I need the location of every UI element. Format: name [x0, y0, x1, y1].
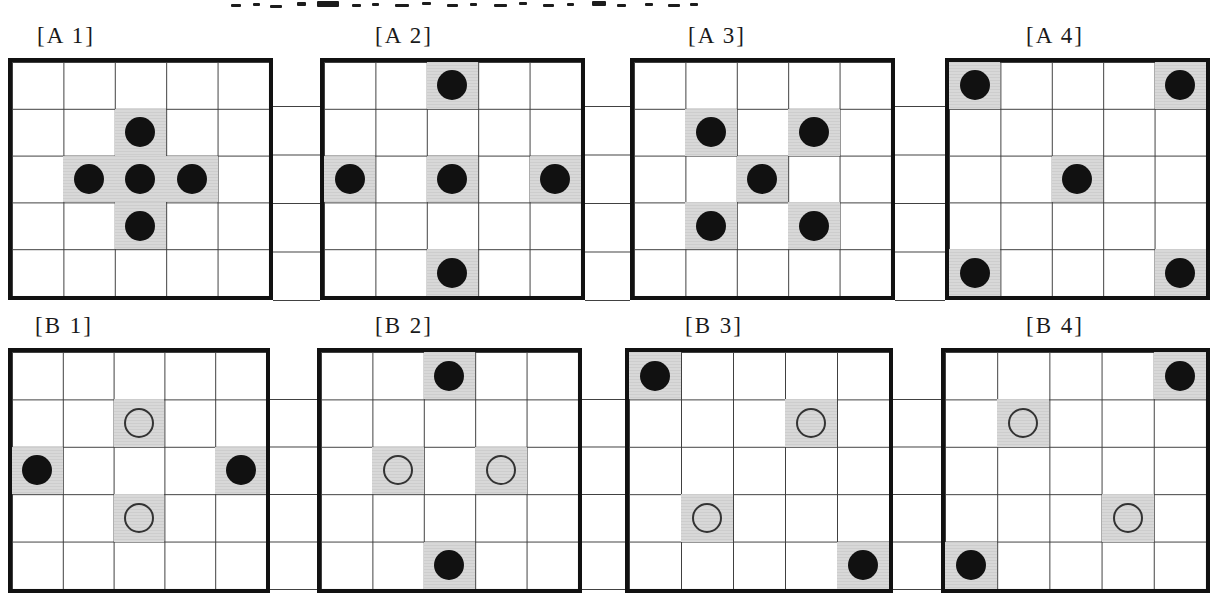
panel-A4: [A 4]	[945, 58, 1210, 300]
marked-cell-A3-r2c2	[737, 156, 788, 203]
filled-dot-icon	[437, 164, 467, 194]
panel-A1: [A 1]	[8, 58, 273, 300]
panel-label-A2: [A 2]	[375, 24, 433, 47]
filled-dot-icon	[848, 550, 878, 580]
grid-gap-lines	[270, 399, 317, 590]
marked-cell-A4-r4c4	[1155, 249, 1206, 296]
cut-off-glyph-fragment	[668, 4, 680, 7]
panel-A3: [A 3]	[630, 58, 895, 300]
grid-board-B4	[941, 348, 1210, 593]
marked-cell-A4-r2c2	[1052, 156, 1103, 203]
marked-cell-B4-r4c0	[945, 542, 997, 589]
marked-cell-A3-r1c1	[685, 109, 736, 156]
cut-off-glyph-fragment	[270, 5, 282, 8]
grid-gap-lines	[582, 399, 625, 590]
marked-cell-B3-r0c0	[629, 352, 681, 399]
marked-cell-A2-r0c2	[427, 62, 478, 109]
cut-off-glyph-fragment	[352, 4, 361, 7]
marked-cell-A2-r2c0	[324, 156, 375, 203]
filled-dot-icon	[125, 117, 155, 147]
filled-dot-icon	[956, 550, 986, 580]
filled-dot-icon	[960, 70, 990, 100]
marked-cell-A4-r0c4	[1155, 62, 1206, 109]
filled-dot-icon	[437, 258, 467, 288]
open-circle-icon	[796, 408, 826, 438]
cut-off-glyph-fragment	[519, 2, 527, 5]
filled-dot-icon	[696, 211, 726, 241]
open-circle-icon	[124, 503, 154, 533]
grid-gap-lines	[895, 106, 945, 301]
panel-label-A4: [A 4]	[1026, 24, 1084, 47]
cut-off-glyph-fragment	[297, 2, 306, 6]
open-circle-icon	[1008, 408, 1038, 438]
open-circle-icon	[124, 408, 154, 438]
cut-off-glyph-fragment	[317, 1, 339, 7]
marked-cell-A1-r2c2	[115, 156, 166, 203]
cut-off-glyph-fragment	[567, 3, 574, 6]
panel-B2: [B 2]	[317, 348, 582, 593]
marked-cell-A1-r1c2	[115, 109, 166, 156]
cut-off-glyph-fragment	[617, 4, 626, 7]
filled-dot-icon	[1165, 361, 1195, 391]
marked-cell-B1-r3c2	[114, 494, 165, 541]
filled-dot-icon	[960, 258, 990, 288]
panel-B1: [B 1]	[8, 348, 270, 593]
filled-dot-icon	[640, 361, 670, 391]
marked-cell-B2-r2c1	[372, 447, 423, 494]
marked-cell-B3-r4c4	[837, 542, 889, 589]
marked-cell-A3-r3c1	[685, 202, 736, 249]
cut-off-glyph-fragment	[422, 2, 431, 5]
cut-off-glyph-fragment	[690, 3, 698, 6]
marked-cell-A3-r1c3	[788, 109, 839, 156]
marked-cell-B4-r3c3	[1102, 494, 1154, 541]
marked-cell-B3-r1c3	[785, 399, 837, 446]
panel-label-A3: [A 3]	[688, 24, 746, 47]
marked-cell-A2-r4c2	[427, 249, 478, 296]
open-circle-icon	[1113, 503, 1143, 533]
marked-cell-A1-r2c1	[63, 156, 114, 203]
grid-board-A1	[8, 58, 273, 300]
panel-label-B1: [B 1]	[35, 314, 93, 337]
panel-label-B3: [B 3]	[685, 314, 743, 337]
panel-label-B4: [B 4]	[1026, 314, 1084, 337]
grid-board-B3	[625, 348, 893, 593]
filled-dot-icon	[437, 70, 467, 100]
filled-dot-icon	[540, 164, 570, 194]
marked-cell-B3-r3c1	[681, 494, 733, 541]
marked-cell-B1-r1c2	[114, 399, 165, 446]
open-circle-icon	[383, 455, 413, 485]
filled-dot-icon	[177, 164, 207, 194]
top-edge-text-fragments	[0, 0, 1218, 12]
filled-dot-icon	[747, 164, 777, 194]
panel-B3: [B 3]	[625, 348, 893, 593]
marked-cell-B4-r1c1	[997, 399, 1049, 446]
grid-board-B1	[8, 348, 270, 593]
cut-off-glyph-fragment	[231, 4, 241, 7]
panel-A2: [A 2]	[320, 58, 585, 300]
filled-dot-icon	[226, 455, 256, 485]
filled-dot-icon	[1165, 258, 1195, 288]
cut-off-glyph-fragment	[645, 3, 653, 6]
filled-dot-icon	[799, 211, 829, 241]
marked-cell-A3-r3c3	[788, 202, 839, 249]
filled-dot-icon	[434, 550, 464, 580]
marked-cell-A1-r3c2	[115, 202, 166, 249]
filled-dot-icon	[696, 117, 726, 147]
cut-off-glyph-fragment	[470, 3, 477, 6]
marked-cell-A1-r2c3	[166, 156, 217, 203]
grid-board-A2	[320, 58, 585, 300]
filled-dot-icon	[434, 361, 464, 391]
marked-cell-B2-r0c2	[424, 352, 475, 399]
panel-label-A1: [A 1]	[37, 24, 95, 47]
marked-cell-B4-r0c4	[1154, 352, 1206, 399]
marked-cell-B2-r4c2	[424, 542, 475, 589]
cut-off-glyph-fragment	[494, 4, 507, 7]
filled-dot-icon	[335, 164, 365, 194]
filled-dot-icon	[799, 117, 829, 147]
marked-cell-B2-r2c3	[475, 447, 526, 494]
marked-cell-A4-r0c0	[949, 62, 1000, 109]
cut-off-glyph-fragment	[372, 3, 379, 6]
filled-dot-icon	[74, 164, 104, 194]
open-circle-icon	[692, 503, 722, 533]
filled-dot-icon	[22, 455, 52, 485]
